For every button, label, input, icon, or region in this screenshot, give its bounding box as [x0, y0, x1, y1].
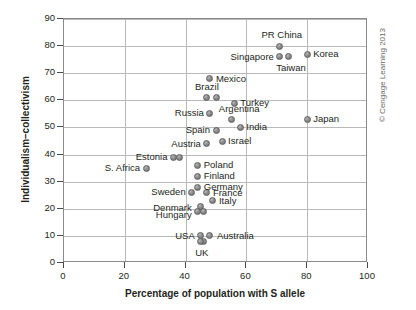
data-point-6 [213, 94, 220, 101]
x-tick-label-60: 60 [225, 271, 265, 281]
data-point-italy [209, 197, 216, 204]
point-label-spain: Spain [186, 125, 210, 135]
data-point-austria [203, 140, 210, 147]
point-label-pr-china: PR China [261, 30, 302, 40]
x-axis-title: Percentage of population with S allele [63, 288, 367, 299]
gridline-y-90 [64, 19, 366, 20]
point-label-japan: Japan [313, 114, 339, 124]
y-tick-label-40: 40 [29, 149, 55, 159]
y-tick-label-80: 80 [29, 40, 55, 50]
point-label-russia: Russia [175, 108, 204, 118]
y-tick-label-30: 30 [29, 176, 55, 186]
point-label-sweden: Sweden [151, 187, 185, 197]
data-point-india [237, 124, 244, 131]
data-point-israel [219, 138, 226, 145]
data-point-korea [304, 51, 311, 58]
point-label-korea: Korea [313, 49, 338, 59]
data-point-spain [213, 127, 220, 134]
x-tick-label-20: 20 [104, 271, 144, 281]
data-point-s-africa [143, 165, 150, 172]
x-tick-mark-40 [185, 262, 186, 268]
point-label-australia: Australia [217, 231, 254, 241]
x-tick-mark-60 [245, 262, 246, 268]
point-label-brazil: Brazil [195, 82, 219, 92]
point-label-hungary: Hungary [156, 210, 192, 220]
data-point-25 [200, 208, 207, 215]
y-axis-title: Individualism–collectivism [20, 18, 31, 262]
y-tick-label-10: 10 [29, 230, 55, 240]
data-point-russia [206, 110, 213, 117]
x-tick-label-0: 0 [43, 271, 83, 281]
point-label-mexico: Mexico [216, 74, 246, 84]
copyright-credit: © Cengage Learning 2013 [378, 28, 387, 122]
x-tick-mark-100 [367, 262, 368, 268]
y-tick-label-60: 60 [29, 94, 55, 104]
y-tick-label-20: 20 [29, 203, 55, 213]
point-label-argentina: Argentina [219, 104, 260, 114]
data-point-taiwan [285, 53, 292, 60]
scatter-plot-figure: 0102030405060708090 020406080100 PR Chin… [0, 0, 416, 310]
point-label-austria: Austria [171, 139, 201, 149]
gridline-y-40 [64, 155, 366, 156]
x-tick-label-80: 80 [286, 271, 326, 281]
point-label-poland: Poland [204, 160, 234, 170]
point-label-india: India [246, 122, 267, 132]
data-point-pr-china [276, 43, 283, 50]
x-tick-mark-80 [306, 262, 307, 268]
data-point-germany [194, 184, 201, 191]
point-label-s-africa: S. Africa [105, 163, 140, 173]
y-tick-label-90: 90 [29, 13, 55, 23]
gridline-x-20 [125, 19, 126, 261]
gridline-y-20 [64, 209, 366, 210]
y-tick-label-0: 0 [29, 257, 55, 267]
data-point-sweden [188, 189, 195, 196]
x-tick-mark-20 [124, 262, 125, 268]
x-tick-label-40: 40 [165, 271, 205, 281]
gridline-y-10 [64, 236, 366, 237]
point-label-israel: Israel [228, 136, 251, 146]
data-point-australia [206, 232, 213, 239]
point-label-italy: Italy [219, 196, 236, 206]
x-tick-label-100: 100 [347, 271, 387, 281]
point-label-taiwan: Taiwan [276, 63, 306, 73]
point-label-estonia: Estonia [136, 152, 168, 162]
data-point-finland [194, 173, 201, 180]
data-point-poland [194, 162, 201, 169]
plot-area: PR ChinaSingaporeTaiwanKoreaMexicoBrazil… [63, 18, 367, 262]
point-label-singapore: Singapore [231, 52, 274, 62]
y-tick-label-70: 70 [29, 67, 55, 77]
y-tick-label-50: 50 [29, 121, 55, 131]
x-tick-mark-0 [63, 262, 64, 268]
point-label-uk: UK [195, 248, 208, 258]
point-label-usa: USA [175, 231, 195, 241]
point-label-finland: Finland [204, 171, 235, 181]
data-point-16 [176, 154, 183, 161]
data-point-singapore [276, 53, 283, 60]
gridline-y-80 [64, 46, 366, 47]
data-point-argentina [228, 116, 235, 123]
data-point-japan [304, 116, 311, 123]
